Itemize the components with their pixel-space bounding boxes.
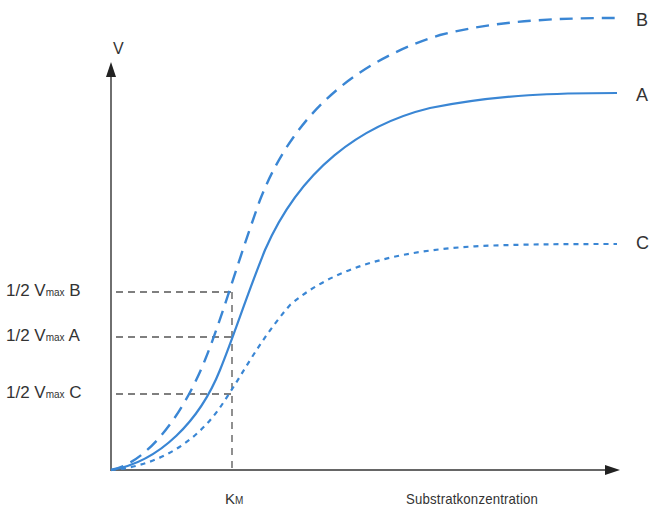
- y-axis-label: V: [113, 40, 124, 58]
- curve-label-b: B: [636, 10, 648, 31]
- curve-b: [111, 18, 617, 470]
- half-vmax-b-label: 1/2 Vmax B: [6, 281, 81, 301]
- half-vmax-c-label: 1/2 Vmax C: [6, 383, 82, 403]
- x-axis-arrow-icon: [605, 465, 620, 475]
- curve-label-c: C: [636, 233, 649, 254]
- y-axis-arrow-icon: [106, 62, 116, 77]
- x-axis-label: Substratkonzentration: [406, 490, 538, 507]
- curve-a: [111, 93, 617, 470]
- half-vmax-a-label: 1/2 Vmax A: [6, 326, 80, 346]
- enzyme-kinetics-chart: [0, 0, 654, 511]
- curve-label-a: A: [636, 85, 648, 106]
- km-label: KM: [225, 490, 243, 507]
- curve-c: [111, 244, 617, 470]
